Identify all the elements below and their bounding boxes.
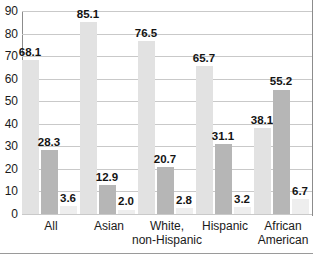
y-axis-tick-label: 60 — [0, 73, 18, 85]
y-axis-tick-label: 40 — [0, 118, 18, 130]
bar-value-label: 68.1 — [14, 47, 47, 59]
gridline — [22, 214, 312, 215]
bar-value-label: 12.9 — [91, 172, 124, 184]
gridline — [22, 11, 312, 12]
gridline — [22, 101, 312, 102]
bar-value-label: 20.7 — [149, 154, 182, 166]
y-axis-tick-label: 10 — [0, 185, 18, 197]
bar — [292, 199, 309, 214]
bar — [157, 167, 174, 214]
bar-value-label: 31.1 — [207, 131, 240, 143]
gridline — [22, 56, 312, 57]
bar-value-label: 76.5 — [130, 28, 163, 40]
x-axis-category-label: African American — [246, 219, 313, 247]
gridline — [22, 34, 312, 35]
bar — [254, 128, 271, 214]
bar — [118, 210, 135, 215]
bar-value-label: 28.3 — [33, 137, 66, 149]
y-axis-tick-label: 30 — [0, 140, 18, 152]
y-axis-tick-label: 20 — [0, 163, 18, 175]
bar-value-label: 6.7 — [284, 186, 314, 198]
bar — [138, 41, 155, 214]
bar — [80, 22, 97, 214]
bar-value-label: 55.2 — [265, 76, 298, 88]
bar — [234, 207, 251, 214]
y-axis-tick-label: 70 — [0, 50, 18, 62]
bar — [41, 150, 58, 214]
bar-value-label: 85.1 — [72, 9, 105, 21]
y-axis-tick-label: 80 — [0, 28, 18, 40]
bar — [176, 208, 193, 214]
bar — [60, 206, 77, 214]
bar-value-label: 65.7 — [188, 53, 221, 65]
y-axis-tick-label: 50 — [0, 95, 18, 107]
chart-frame-right-border — [312, 0, 313, 216]
y-axis-tick-label: 90 — [0, 5, 18, 17]
plot-area: 68.128.33.685.112.92.076.520.72.865.731.… — [22, 11, 312, 214]
bar-chart: 68.128.33.685.112.92.076.520.72.865.731.… — [0, 0, 313, 254]
